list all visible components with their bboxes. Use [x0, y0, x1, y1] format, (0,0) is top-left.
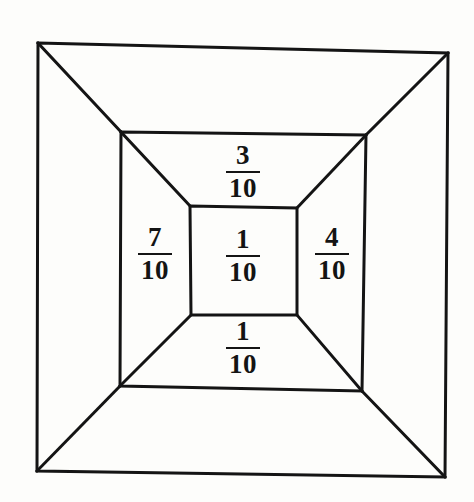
fraction-numerator: 3	[234, 142, 252, 171]
fraction-denominator: 10	[316, 255, 348, 284]
fraction-numerator: 7	[146, 224, 164, 253]
fraction-denominator: 10	[227, 173, 259, 202]
fraction-label-right: 4 10	[315, 224, 349, 284]
fraction-label-bottom: 1 10	[226, 318, 260, 378]
fraction-diagram-figure: 3 10 7 10 1 10 4 10 1 10	[0, 0, 474, 502]
fraction-numerator: 4	[323, 224, 341, 253]
fraction-denominator: 10	[139, 255, 171, 284]
fraction-label-top: 3 10	[226, 142, 260, 202]
fraction-label-center: 1 10	[226, 226, 260, 286]
fraction-denominator: 10	[227, 257, 259, 286]
fraction-numerator: 1	[234, 226, 252, 255]
fraction-label-left: 7 10	[138, 224, 172, 284]
fraction-numerator: 1	[234, 318, 252, 347]
fraction-denominator: 10	[227, 349, 259, 378]
